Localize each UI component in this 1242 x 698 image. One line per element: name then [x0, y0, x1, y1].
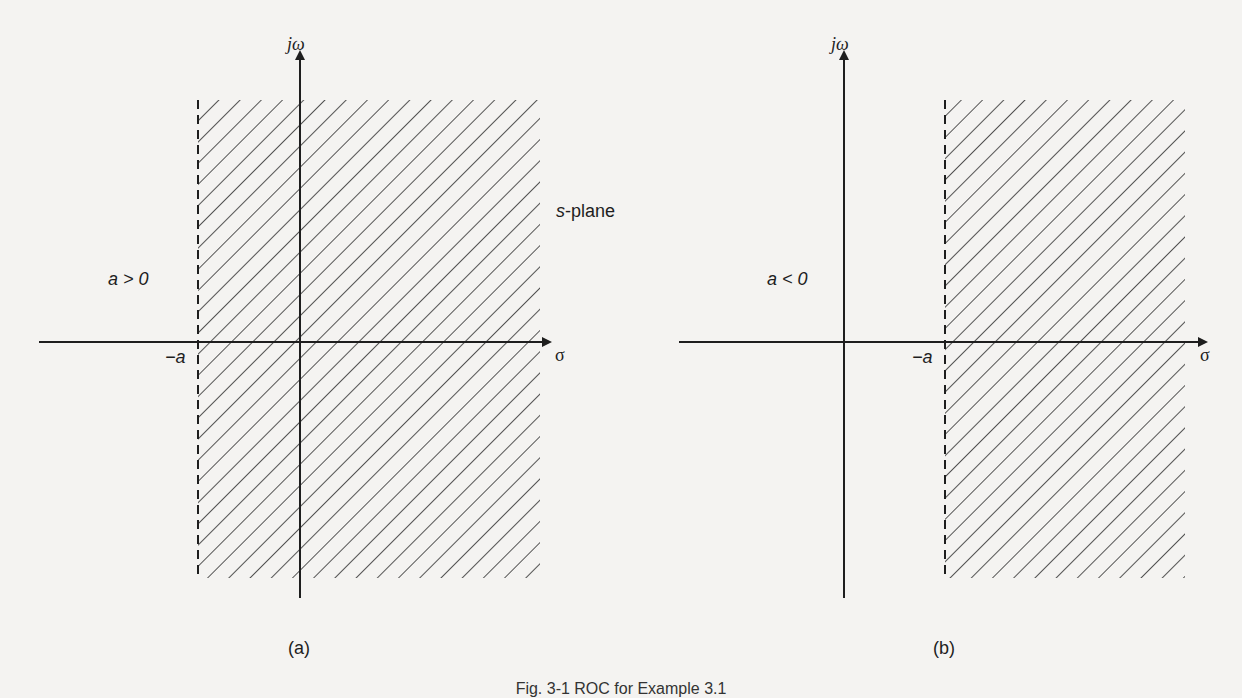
imag-axis-label-a: jω: [287, 34, 305, 55]
panel-a: [39, 52, 550, 598]
imag-axis-label-b: jω: [831, 34, 849, 55]
real-axis-label-b: σ: [1200, 345, 1210, 366]
condition-label-b: a < 0: [767, 269, 808, 290]
panel-sublabel-a: (a): [288, 638, 310, 659]
panel-b: [679, 52, 1206, 598]
roc-hatched-region-b: [945, 100, 1185, 578]
roc-hatched-region-a: [198, 100, 540, 578]
real-axis-label-a: σ: [555, 345, 565, 366]
condition-label-a: a > 0: [108, 269, 149, 290]
figure-caption: Fig. 3-1 ROC for Example 3.1: [0, 680, 1242, 698]
boundary-label-a: −a: [165, 347, 186, 368]
s-plane-label: s-plane: [556, 201, 615, 222]
panel-sublabel-b: (b): [933, 638, 955, 659]
boundary-label-b: −a: [912, 347, 933, 368]
